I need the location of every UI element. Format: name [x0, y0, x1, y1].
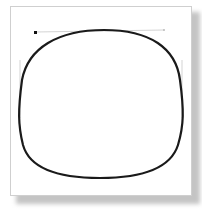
- handle-endpoint-right[interactable]: [163, 29, 165, 31]
- vector-canvas: [0, 0, 202, 209]
- rounded-shape-path[interactable]: [19, 30, 183, 178]
- anchor-point-icon[interactable]: [34, 31, 37, 34]
